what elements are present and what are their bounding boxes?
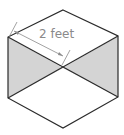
hexagon-diagram: 2 feet [0, 0, 124, 135]
shaded-right-triangle [63, 36, 118, 97]
arrowhead-right [58, 52, 63, 56]
dimension-label: 2 feet [39, 27, 74, 41]
dimension-tick-right [62, 50, 70, 65]
shaded-left-triangle [8, 37, 63, 98]
